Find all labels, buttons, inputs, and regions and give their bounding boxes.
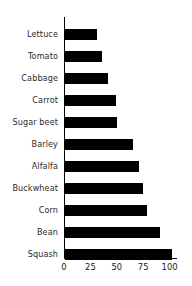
bar: [65, 205, 147, 216]
category-label: Tomato: [28, 51, 58, 62]
category-label: Bean: [37, 227, 58, 238]
x-axis-tick-label: 100: [162, 262, 178, 272]
bar: [65, 29, 97, 40]
category-label: Squash: [28, 249, 58, 260]
x-axis-line: [64, 258, 177, 259]
x-axis-tick: [117, 255, 118, 258]
x-axis-tick: [90, 255, 91, 258]
bar-chart: LettuceTomatoCabbageCarrotSugar beetBarl…: [0, 0, 192, 286]
category-label: Alfalfa: [32, 161, 58, 172]
x-axis-tick-label: 0: [61, 262, 66, 272]
bar: [65, 95, 116, 106]
bar: [65, 51, 102, 62]
category-label: Carrot: [32, 95, 58, 106]
category-axis-labels: LettuceTomatoCabbageCarrotSugar beetBarl…: [0, 17, 58, 257]
bar: [65, 117, 117, 128]
category-label: Corn: [39, 205, 58, 216]
bar: [65, 183, 143, 194]
category-label: Cabbage: [21, 73, 58, 84]
x-axis-tick-label: 50: [111, 262, 122, 272]
bar: [65, 161, 139, 172]
x-axis-tick: [170, 255, 171, 258]
category-label: Lettuce: [27, 29, 58, 40]
bar: [65, 73, 108, 84]
category-label: Buckwheat: [12, 183, 58, 194]
x-axis-tick-label: 75: [138, 262, 149, 272]
x-axis-tick: [143, 255, 144, 258]
x-axis: 0255075100: [64, 258, 192, 286]
bar: [65, 139, 133, 150]
x-axis-tick-label: 25: [85, 262, 96, 272]
plot-area: [64, 17, 192, 257]
bar: [65, 227, 160, 238]
x-axis-tick: [64, 255, 65, 258]
category-label: Barley: [32, 139, 58, 150]
category-label: Sugar beet: [12, 117, 58, 128]
